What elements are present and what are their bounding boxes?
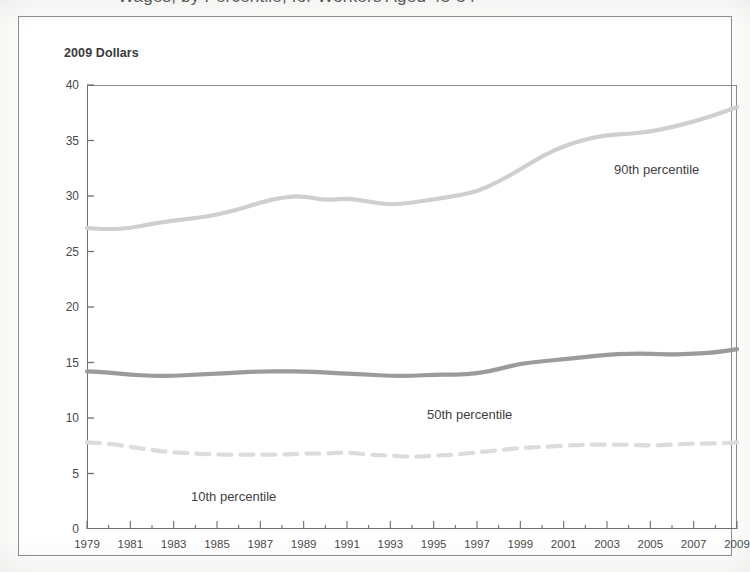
figure-border: 2009 Dollars 0510152025303540 90th perce… — [18, 16, 732, 556]
x-tick-label: 1999 — [508, 538, 534, 550]
series-line — [87, 442, 737, 456]
x-tick-label: 2003 — [594, 538, 620, 550]
x-tick-label: 2001 — [551, 538, 577, 550]
x-tick-label: 1995 — [421, 538, 447, 550]
x-tick-label: 1987 — [248, 538, 274, 550]
y-tick-label: 0 — [72, 522, 79, 536]
x-tick-label: 2007 — [681, 538, 707, 550]
x-tick-label: 1991 — [334, 538, 360, 550]
x-axis-tick-labels: 1979198119831985198719891991199319951997… — [87, 538, 737, 558]
y-axis-tick-labels: 0510152025303540 — [45, 85, 79, 529]
y-tick-label: 25 — [66, 245, 79, 259]
y-tick-label: 35 — [66, 134, 79, 148]
series-label-50th-percentile: 50th percentile — [427, 407, 512, 422]
y-tick-label: 5 — [72, 467, 79, 481]
scanned-page: Wages, by Percentile, for Workers Aged 4… — [0, 0, 750, 572]
clipped-figure-title: Wages, by Percentile, for Workers Aged 4… — [0, 0, 750, 14]
x-tick-label: 1979 — [74, 538, 100, 550]
series-label-90th-percentile: 90th percentile — [614, 162, 699, 177]
x-tick-label: 1989 — [291, 538, 317, 550]
plot-area: 90th percentile 50th percentile 10th per… — [87, 85, 737, 529]
series-label-10th-percentile: 10th percentile — [191, 489, 276, 504]
y-axis-unit-caption: 2009 Dollars — [64, 46, 139, 60]
x-tick-label: 1985 — [204, 538, 230, 550]
series-lines — [87, 85, 737, 529]
x-tick-label: 1983 — [161, 538, 187, 550]
y-tick-label: 20 — [66, 300, 79, 314]
x-tick-label: 1997 — [464, 538, 490, 550]
y-tick-label: 15 — [66, 356, 79, 370]
series-line — [87, 349, 737, 376]
x-tick-label: 1981 — [118, 538, 144, 550]
clipped-figure-title-text: Wages, by Percentile, for Workers Aged 4… — [118, 0, 475, 7]
x-tick-label: 2009 — [724, 538, 750, 550]
y-tick-label: 30 — [66, 189, 79, 203]
x-tick-label: 1993 — [378, 538, 404, 550]
y-tick-label: 40 — [66, 78, 79, 92]
x-tick-label: 2005 — [638, 538, 664, 550]
y-tick-label: 10 — [66, 411, 79, 425]
